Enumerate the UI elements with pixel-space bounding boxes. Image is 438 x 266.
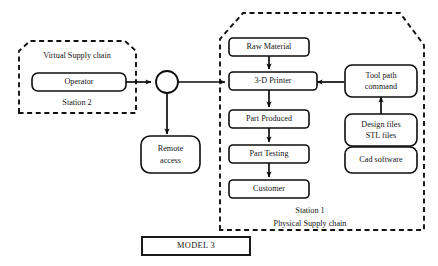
node-operator[interactable]: Operator [32, 73, 126, 91]
node-remote-access[interactable]: Remote access [141, 136, 200, 173]
group-label-station-1: Station 1 [295, 206, 324, 215]
node-part-testing-label: Part Testing [249, 149, 288, 158]
node-cad-software-label: Cad software [359, 155, 403, 164]
node-3d-printer-label: 3-D Printer [254, 76, 291, 85]
node-tool-path-command-label-line1: Tool path [365, 71, 396, 80]
node-design-files[interactable]: Design files STL files [345, 114, 417, 146]
node-raw-material[interactable]: Raw Material [229, 38, 309, 56]
node-tool-path-command-label-line2: command [365, 82, 397, 91]
node-design-files-label-line1: Design files [361, 120, 400, 129]
group-label-virtual-supply-chain: Virtual Supply chain [43, 51, 111, 60]
node-design-files-label-line2: STL files [366, 131, 396, 140]
node-part-produced[interactable]: Part Produced [229, 110, 309, 128]
node-operator-label: Operator [64, 77, 93, 86]
node-customer[interactable]: Customer [229, 180, 309, 198]
node-raw-material-label: Raw Material [247, 42, 293, 51]
node-3d-printer[interactable]: 3-D Printer [229, 72, 317, 90]
node-remote-access-label-line1: Remote [158, 144, 184, 153]
group-label-physical-supply-chain: Physical Supply chain [274, 219, 347, 228]
node-junction[interactable] [156, 71, 178, 93]
node-cad-software[interactable]: Cad software [345, 147, 417, 173]
model-title-label: MODEL 3 [177, 241, 215, 250]
group-label-station-2: Station 2 [62, 98, 91, 107]
node-customer-label: Customer [253, 184, 285, 193]
model-3-supply-chain-diagram: Operator Remote access Raw Material 3-D … [0, 0, 438, 266]
model-title-box: MODEL 3 [142, 237, 250, 255]
node-tool-path-command[interactable]: Tool path command [345, 65, 417, 97]
node-remote-access-label-line2: access [160, 156, 181, 165]
node-part-testing[interactable]: Part Testing [229, 145, 309, 163]
node-part-produced-label: Part Produced [246, 114, 292, 123]
diagram-canvas: Operator Remote access Raw Material 3-D … [0, 0, 438, 266]
